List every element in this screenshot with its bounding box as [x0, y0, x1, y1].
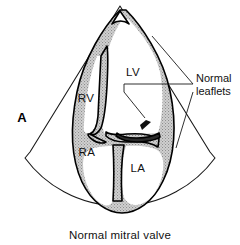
- panel-letter: A: [17, 110, 27, 125]
- chamber-label-ra: RA: [79, 146, 96, 158]
- chamber-label-lv: LV: [126, 66, 140, 78]
- chamber-label-la: LA: [131, 162, 146, 174]
- echocardiogram-diagram: LV RV RA LA Normal leaflets A Normal mit…: [0, 0, 240, 245]
- figure-root: LV RV RA LA Normal leaflets A Normal mit…: [0, 0, 240, 245]
- chamber-label-rv: RV: [78, 92, 95, 104]
- figure-caption: Normal mitral valve: [69, 229, 171, 241]
- callout-label-line1: Normal: [196, 72, 231, 84]
- callout-label-line2: leaflets: [196, 85, 231, 97]
- left-atrium-cavity: [122, 146, 163, 205]
